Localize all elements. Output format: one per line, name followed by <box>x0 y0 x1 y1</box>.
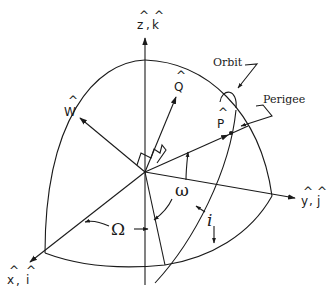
q-vector-label: Q ^ <box>174 69 186 94</box>
w-vector-label: W ^ <box>64 94 78 119</box>
raan-symbol: Ω <box>111 219 125 239</box>
perigee-leader <box>241 105 272 126</box>
x-axis-label: x ^ , i ^ <box>7 264 36 288</box>
w-vector <box>80 118 145 172</box>
z-axis-label: z ^ , k ^ <box>137 9 164 32</box>
svg-text:,: , <box>16 274 20 288</box>
svg-text:,: , <box>146 18 150 32</box>
orbit-label: Orbit <box>213 56 243 69</box>
argp-arrow-down <box>154 199 172 220</box>
incl-arrow-upper <box>196 206 205 212</box>
perigee-label: Perigee <box>263 93 305 106</box>
node-line <box>145 172 165 265</box>
inclination-symbol: i <box>207 210 212 230</box>
svg-text:^: ^ <box>218 106 228 120</box>
argp-arrow-up <box>186 152 188 180</box>
svg-text:^: ^ <box>317 185 327 199</box>
svg-text:^: ^ <box>154 9 164 23</box>
p-vector-label: P ^ <box>217 106 228 131</box>
svg-text:^: ^ <box>26 264 36 278</box>
orbital-elements-diagram: z ^ , k ^ y ^ , j ^ x ^ , i ^ W ^ Q ^ P … <box>0 0 335 294</box>
svg-text:^: ^ <box>176 69 186 83</box>
perigee-point <box>229 131 233 135</box>
y-axis-label: y ^ , j ^ <box>301 185 327 208</box>
right-angle-marker <box>137 145 166 165</box>
argp-symbol: ω <box>175 180 189 200</box>
svg-text:^: ^ <box>68 94 78 108</box>
svg-text:,: , <box>309 194 313 208</box>
x-axis <box>30 172 145 262</box>
raan-arrow-left <box>85 221 109 226</box>
